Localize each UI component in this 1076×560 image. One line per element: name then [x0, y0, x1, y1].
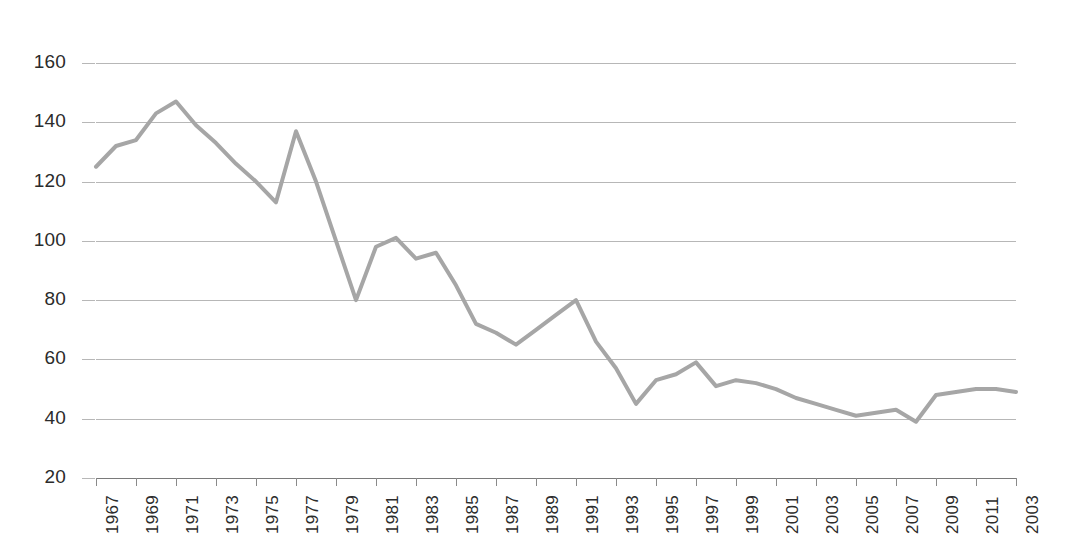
x-axis-tick-label: 1973	[223, 495, 243, 534]
y-axis-tick-label: 100	[0, 229, 66, 251]
x-axis-tick-mark	[336, 478, 337, 486]
x-axis-tick-mark	[896, 478, 897, 486]
x-axis-tick-label: 1967	[103, 495, 123, 534]
x-axis-tick-label: 2003	[823, 495, 843, 534]
line-chart: 16014012010080604020 1967196919711973197…	[0, 0, 1076, 560]
x-axis-tick-mark	[736, 478, 737, 486]
x-axis-tick-label: 2009	[943, 495, 963, 534]
y-axis-tick-mark	[82, 122, 95, 123]
y-axis-tick-mark	[82, 419, 95, 420]
x-axis-tick-label: 1971	[183, 495, 203, 534]
data-line-series-1	[96, 102, 1016, 422]
x-axis-tick-label: 2007	[903, 495, 923, 534]
x-axis-tick-mark	[816, 478, 817, 486]
x-axis-tick-mark	[496, 478, 497, 486]
x-axis-tick-label: 1995	[663, 495, 683, 534]
x-axis-tick-label: 1969	[143, 495, 163, 534]
x-axis-tick-mark	[96, 478, 97, 486]
x-axis-tick-mark	[376, 478, 377, 486]
x-axis-tick-label: 2001	[783, 495, 803, 534]
y-axis-tick-label: 160	[0, 51, 66, 73]
y-axis-tick-mark	[82, 359, 95, 360]
x-axis-tick-label: 1985	[463, 495, 483, 534]
x-axis-tick-label: 1999	[743, 495, 763, 534]
x-axis-tick-mark	[976, 478, 977, 486]
x-axis-tick-label: 1997	[703, 495, 723, 534]
x-axis-tick-label: 1983	[423, 495, 443, 534]
y-axis-tick-label: 60	[0, 347, 66, 369]
x-axis-tick-mark	[1016, 478, 1017, 486]
y-axis-tick-mark	[82, 478, 95, 479]
x-axis-tick-label: 1987	[503, 495, 523, 534]
x-axis-tick-mark	[576, 478, 577, 486]
plot-area: 16014012010080604020 1967196919711973197…	[96, 63, 1016, 478]
x-axis-tick-mark	[256, 478, 257, 486]
y-axis-tick-label: 120	[0, 170, 66, 192]
x-axis-tick-mark	[136, 478, 137, 486]
x-axis-tick-mark	[216, 478, 217, 486]
x-axis-tick-label: 1977	[303, 495, 323, 534]
y-axis-tick-mark	[82, 63, 95, 64]
x-axis-tick-mark	[536, 478, 537, 486]
y-axis-tick-mark	[82, 182, 95, 183]
y-axis-tick-label: 20	[0, 466, 66, 488]
x-axis-tick-mark	[296, 478, 297, 486]
y-axis-tick-label: 140	[0, 110, 66, 132]
x-axis-tick-label: 2005	[863, 495, 883, 534]
x-axis-tick-mark	[856, 478, 857, 486]
x-axis-tick-label: 1991	[583, 495, 603, 534]
x-axis-tick-label: 1979	[343, 495, 363, 534]
y-axis-tick-mark	[82, 300, 95, 301]
x-axis-tick-mark	[936, 478, 937, 486]
x-axis-tick-label: 2003	[1023, 495, 1043, 534]
x-axis-tick-mark	[456, 478, 457, 486]
x-axis-tick-label: 2011	[983, 496, 1003, 534]
y-axis-tick-mark	[82, 241, 95, 242]
series-line-group	[96, 63, 1016, 478]
y-axis-tick-label: 80	[0, 288, 66, 310]
x-axis-tick-mark	[696, 478, 697, 486]
x-axis-tick-mark	[176, 478, 177, 486]
x-axis-tick-label: 1975	[263, 495, 283, 534]
x-axis-tick-label: 1993	[623, 495, 643, 534]
x-axis-tick-mark	[616, 478, 617, 486]
x-axis: 1967196919711973197519771979198119831985…	[96, 478, 1016, 560]
x-axis-tick-mark	[416, 478, 417, 486]
y-axis-tick-label: 40	[0, 407, 66, 429]
x-axis-tick-label: 1989	[543, 495, 563, 534]
x-axis-tick-mark	[776, 478, 777, 486]
x-axis-tick-mark	[656, 478, 657, 486]
x-axis-tick-label: 1981	[383, 495, 403, 534]
